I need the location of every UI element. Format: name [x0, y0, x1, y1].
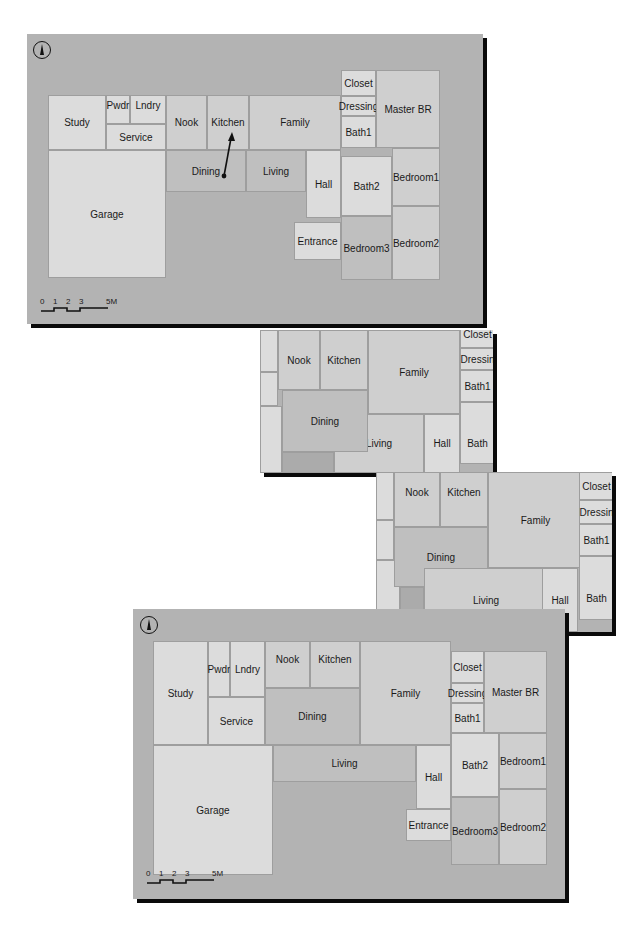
- room-master-br[interactable]: Master BR: [484, 651, 547, 733]
- scale-bar: 0 1 2 3 5M: [146, 869, 223, 884]
- room-closet[interactable]: Closet: [579, 472, 612, 500]
- room-entrance[interactable]: Entrance: [406, 809, 451, 841]
- room-partial-left-b: [260, 372, 278, 406]
- room-hall[interactable]: Hall: [424, 414, 460, 473]
- room-lndry[interactable]: Lndry: [230, 641, 265, 697]
- north-arrow-icon: [140, 616, 158, 634]
- room-bath2[interactable]: Bath: [460, 402, 493, 464]
- room-partial-left-b: [376, 520, 394, 560]
- room-kitchen[interactable]: Kitchen: [440, 472, 488, 527]
- room-kitchen[interactable]: Kitchen: [310, 641, 360, 688]
- room-dressing[interactable]: Dressing: [451, 683, 484, 703]
- room-closet[interactable]: Closet: [460, 330, 493, 348]
- floorplan-panel-result: Study Pwdr Lndry Service Nook Kitchen Di…: [133, 609, 565, 899]
- room-hall[interactable]: Hall: [416, 745, 451, 809]
- room-dressing[interactable]: Dressin: [579, 500, 612, 524]
- floorplan-panel-step-1: Nook Kitchen Family Dining Living Dining…: [260, 330, 493, 473]
- room-dressing[interactable]: Dressin: [460, 348, 493, 370]
- room-kitchen[interactable]: Kitchen: [320, 330, 368, 390]
- room-nook[interactable]: Nook: [265, 641, 310, 688]
- floorplan-panel-original: Study Pwdr Lndry Service Nook Kitchen Fa…: [27, 34, 483, 324]
- figure-caption-cut-off: [0, 917, 639, 925]
- room-nook[interactable]: Nook: [394, 472, 440, 527]
- room-family[interactable]: Family: [488, 472, 583, 568]
- room-bedroom1[interactable]: Bedroom1: [499, 733, 547, 789]
- room-partial-left-a: [260, 330, 278, 372]
- move-arrow-icon: [27, 34, 483, 324]
- room-partial-left-a: [376, 472, 394, 520]
- room-dining-overlay: Dining: [282, 390, 368, 452]
- room-family[interactable]: Family: [360, 641, 451, 745]
- room-bedroom2[interactable]: Bedroom2: [499, 789, 547, 865]
- room-partial-left-c: [260, 406, 282, 473]
- room-bath1[interactable]: Bath1: [451, 703, 484, 733]
- room-partial-bottom: [282, 452, 334, 473]
- room-nook[interactable]: Nook: [278, 330, 320, 390]
- room-service[interactable]: Service: [208, 697, 265, 745]
- room-garage[interactable]: Garage: [153, 745, 273, 875]
- room-dining[interactable]: Dining: [265, 688, 360, 745]
- room-study[interactable]: Study: [153, 641, 208, 745]
- room-living[interactable]: Living: [273, 745, 416, 782]
- room-pwdr[interactable]: Pwdr: [208, 641, 230, 697]
- floorplan-panel-step-2: Nook Kitchen Family Dining Living Hall C…: [376, 472, 612, 632]
- scale-bar: 0 1 2 3 5M: [40, 297, 117, 312]
- room-bath1[interactable]: Bath1: [460, 370, 493, 402]
- room-closet[interactable]: Closet: [451, 651, 484, 683]
- room-bath2[interactable]: Bath: [579, 556, 612, 620]
- room-family[interactable]: Family: [368, 330, 460, 414]
- room-bath1[interactable]: Bath1: [579, 524, 612, 556]
- room-bath2[interactable]: Bath2: [451, 733, 499, 797]
- room-bedroom3[interactable]: Bedroom3: [451, 797, 499, 865]
